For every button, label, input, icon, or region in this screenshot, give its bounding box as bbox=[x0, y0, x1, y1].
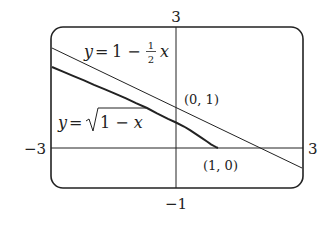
svg-text:1: 1 bbox=[148, 40, 154, 51]
svg-text:1 −: 1 − bbox=[112, 42, 141, 61]
tangent-line bbox=[52, 48, 302, 168]
xmin-label: −3 bbox=[24, 140, 46, 158]
tangent-line-equation: y = 1 − 1 2 x bbox=[83, 40, 169, 65]
svg-text:2: 2 bbox=[148, 54, 154, 65]
ymax-label: 3 bbox=[171, 8, 181, 26]
point-label-0-1: (0, 1) bbox=[184, 92, 219, 107]
xmax-label: 3 bbox=[308, 140, 318, 158]
ymin-label: −1 bbox=[165, 195, 187, 213]
svg-text:x: x bbox=[160, 42, 169, 61]
svg-text:=: = bbox=[69, 113, 82, 132]
sqrt-curve-equation: y = 1 − x bbox=[57, 108, 146, 132]
svg-text:1 − x: 1 − x bbox=[100, 113, 143, 132]
point-label-1-0: (1, 0) bbox=[203, 158, 238, 173]
svg-text:y: y bbox=[83, 42, 94, 61]
svg-text:y: y bbox=[57, 113, 68, 132]
graph-figure: 3 −1 −3 3 (0, 1) (1, 0) y = 1 − 1 2 x y … bbox=[0, 0, 330, 227]
svg-text:=: = bbox=[95, 42, 108, 61]
